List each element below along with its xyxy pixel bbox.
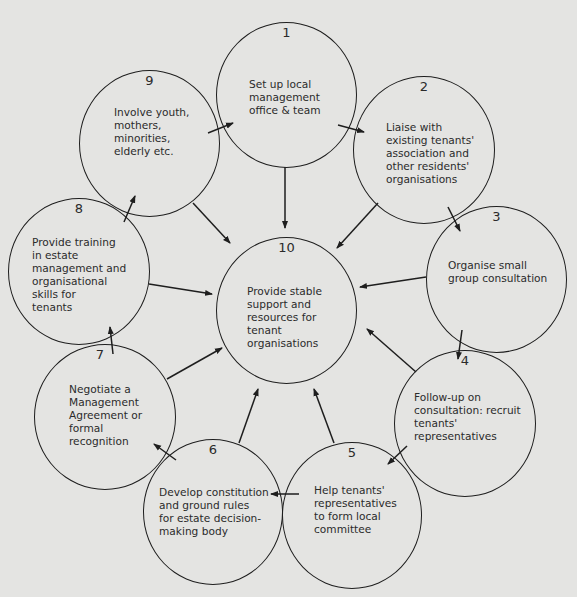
node-label: Help tenants' representatives to form lo… (314, 484, 397, 536)
node-label: Develop constitution and ground rules fo… (159, 486, 269, 538)
node-label: Set up local management office & team (249, 78, 321, 117)
node-number: 5 (283, 445, 421, 460)
arrow-8-to-10 (149, 284, 212, 294)
node-number: 9 (80, 73, 219, 88)
node-3: 3 Organise small group consultation (426, 206, 567, 353)
node-label: Organise small group consultation (448, 259, 547, 285)
arrow-7-to-10 (167, 348, 222, 379)
node-2: 2 Liaise with existing tenants' associat… (353, 76, 495, 224)
node-9: 9 Involve youth, mothers, minorities, el… (79, 70, 220, 217)
node-7: 7 Negotiate a Management Agreement or fo… (34, 344, 176, 490)
node-label: Provide stable support and resources for… (247, 285, 322, 350)
node-number: 2 (354, 79, 494, 94)
node-10-center: 10 Provide stable support and resources … (216, 237, 357, 384)
node-label: Negotiate a Management Agreement or form… (69, 383, 142, 448)
arrow-9-to-10 (193, 203, 230, 243)
node-label: Follow-up on consultation: recruit tenan… (414, 391, 521, 443)
process-cycle-diagram: 10 Provide stable support and resources … (0, 0, 577, 597)
node-label: Provide training in estate management an… (32, 236, 126, 314)
node-1: 1 Set up local management office & team (216, 22, 357, 168)
node-number: 3 (427, 209, 566, 224)
node-label: Involve youth, mothers, minorities, elde… (114, 106, 189, 158)
node-number: 4 (395, 353, 535, 368)
node-8: 8 Provide training in estate management … (8, 198, 150, 345)
node-number: 1 (217, 25, 356, 40)
arrow-6-to-10 (239, 389, 258, 443)
node-number: 7 (25, 347, 175, 362)
node-6: 6 Develop constitution and ground rules … (143, 439, 283, 585)
node-number: 10 (217, 240, 356, 255)
node-label: Liaise with existing tenants' associatio… (386, 121, 474, 186)
node-5: 5 Help tenants' representatives to form … (282, 442, 422, 589)
arrow-3-to-10 (360, 277, 426, 287)
node-4: 4 Follow-up on consultation: recruit ten… (394, 350, 536, 497)
arrow-5-to-10 (314, 389, 334, 443)
